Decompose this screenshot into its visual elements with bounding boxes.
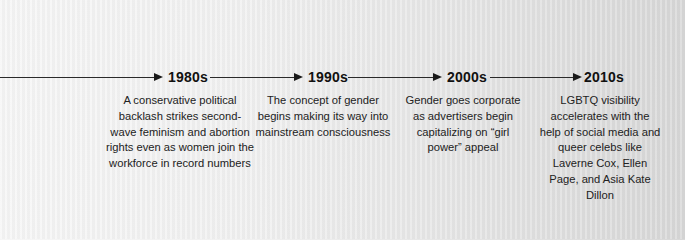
arrow-right-icon [433,73,442,81]
era-description: The concept of gender begins making its … [254,93,392,140]
arrow-right-icon [573,73,582,81]
arrow-right-icon [154,73,163,81]
era-label: 1990s [308,67,348,87]
arrow-right-icon [294,73,303,81]
timeline-line-segment [0,77,156,78]
era-description: LGBTQ visibility accelerates with the he… [539,93,661,204]
timeline-line-segment [490,77,576,78]
timeline-line-segment [210,77,298,78]
era-description: A conservative political backlash strike… [106,93,254,172]
era-label: 2000s [447,67,487,87]
timeline-line-segment [348,77,434,78]
era-description: Gender goes corporate as advertisers beg… [404,93,522,156]
era-label: 1980s [168,67,208,87]
era-label: 2010s [584,67,624,87]
